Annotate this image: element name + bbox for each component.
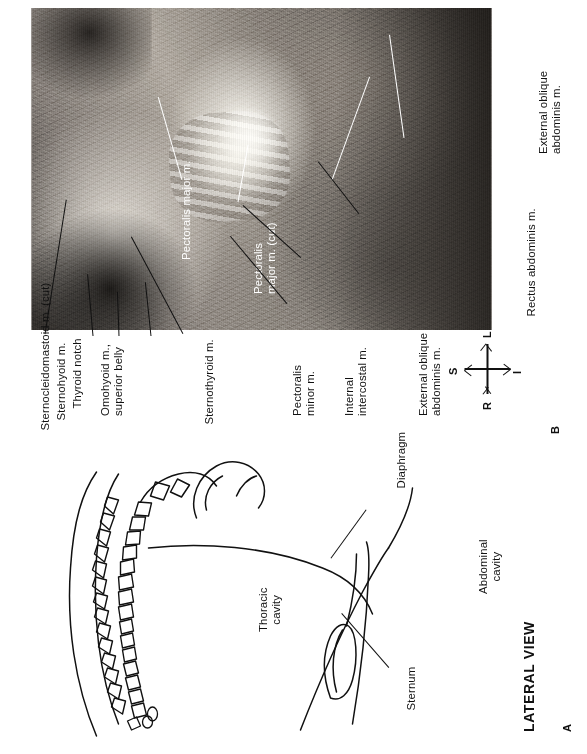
label-abdominal-cavity: Abdominal cavity bbox=[452, 539, 525, 594]
compass-label-right: R bbox=[480, 402, 492, 410]
label-omohyoid: Omohyoid m., superior belly bbox=[74, 344, 147, 416]
compass-vertical-axis bbox=[464, 368, 510, 370]
label-sternothyroid: Sternothyroid m. bbox=[190, 339, 227, 444]
compass-arrow-right2 bbox=[479, 343, 486, 351]
compass-label-superior: S bbox=[446, 368, 458, 375]
label-sternum: Sternum bbox=[392, 667, 429, 730]
panel-b: Pectoralis major m. Pectoralis major m. … bbox=[0, 0, 587, 454]
label-external-oblique-right: External oblique abdominis m. bbox=[512, 71, 585, 154]
panel-a: Sternum Thoracic cavity Diaphragm Abdomi… bbox=[0, 454, 587, 754]
label-pectoralis-major-cut: Pectoralis major m. (cut) bbox=[227, 222, 300, 294]
cadaver-photograph: Pectoralis major m. Pectoralis major m. … bbox=[31, 8, 491, 330]
orientation-compass: S I R L bbox=[456, 330, 518, 408]
label-internal-intercostal: Internal intercostal m. bbox=[318, 347, 391, 416]
figure-stage: Sternum Thoracic cavity Diaphragm Abdomi… bbox=[0, 0, 587, 754]
compass-label-inferior: I bbox=[510, 371, 522, 374]
compass-label-left: L bbox=[480, 331, 492, 338]
label-pectoralis-major: Pectoralis major m. bbox=[167, 160, 204, 286]
label-rectus-abdominis: Rectus abdominis m. bbox=[512, 208, 549, 336]
panel-a-marker: A bbox=[560, 724, 572, 732]
panel-b-marker: B bbox=[548, 426, 560, 434]
panel-a-view-title: LATERAL VIEW bbox=[520, 621, 536, 732]
label-thoracic-cavity: Thoracic cavity bbox=[232, 588, 305, 632]
compass-arrow-up2 bbox=[463, 370, 471, 377]
